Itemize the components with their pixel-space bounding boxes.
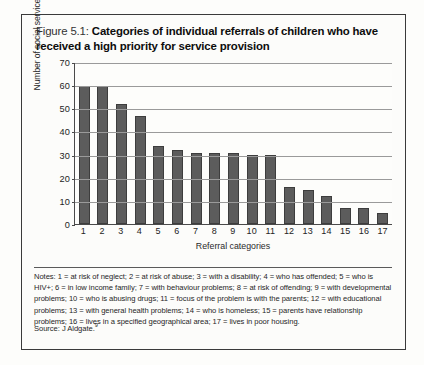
y-axis-tick-labels: 010203040506070 [44, 63, 70, 225]
x-axis-label: Referral categories [74, 241, 392, 251]
figure-caption: Figure 5.1: Categories of individual ref… [36, 24, 392, 54]
bar [340, 208, 351, 224]
plot-area [74, 63, 392, 225]
bar-slot [243, 63, 262, 224]
figure-label: Figure 5.1: [36, 25, 89, 37]
figure-notes: Notes: 1 = at risk of neglect; 2 = at ri… [34, 271, 394, 327]
bar [303, 190, 314, 225]
y-tick-mark [72, 179, 76, 180]
y-tick-label: 40 [59, 127, 70, 137]
y-tick-label: 20 [59, 174, 70, 184]
x-tick-label: 5 [149, 226, 168, 236]
bar-slot [280, 63, 299, 224]
bar [116, 104, 127, 224]
bar-slot [336, 63, 355, 224]
bar-slot [224, 63, 243, 224]
bar [377, 213, 388, 225]
bar-series [75, 63, 392, 224]
x-tick-label: 1 [74, 226, 93, 236]
y-tick-label: 50 [59, 104, 70, 114]
bar-slot [112, 63, 131, 224]
bar-slot [94, 63, 113, 224]
gridline [75, 132, 392, 133]
gridline [75, 202, 392, 203]
bar-slot [187, 63, 206, 224]
figure-box: Figure 5.1: Categories of individual ref… [21, 14, 406, 350]
bar-slot [299, 63, 318, 224]
bar [153, 146, 164, 224]
bar [209, 153, 220, 224]
x-tick-label: 8 [205, 226, 224, 236]
x-tick-label: 9 [224, 226, 243, 236]
gridline [75, 86, 392, 87]
x-tick-label: 3 [111, 226, 130, 236]
bar [191, 153, 202, 224]
y-tick-label: 70 [59, 58, 70, 68]
y-tick-mark [72, 109, 76, 110]
x-tick-label: 13 [298, 226, 317, 236]
bar [172, 150, 183, 224]
x-tick-label: 6 [168, 226, 187, 236]
y-tick-mark [72, 86, 76, 87]
y-axis-label: Number of social services departments [32, 0, 42, 93]
bar-slot [205, 63, 224, 224]
figure-source: Source: J Aldgate.9 [34, 322, 98, 333]
bar [284, 187, 295, 224]
gridline [75, 179, 392, 180]
source-footnote-marker: 9 [95, 322, 98, 328]
x-tick-label: 2 [93, 226, 112, 236]
y-tick-mark [72, 156, 76, 157]
bar-slot [373, 63, 392, 224]
y-tick-label: 30 [59, 151, 70, 161]
bar-slot [131, 63, 150, 224]
x-tick-label: 11 [261, 226, 280, 236]
bar [228, 153, 239, 224]
bar [358, 208, 369, 224]
y-tick-label: 60 [59, 81, 70, 91]
bar-slot [168, 63, 187, 224]
x-tick-label: 16 [355, 226, 374, 236]
y-tick-mark [72, 63, 76, 64]
y-tick-label: 10 [59, 197, 70, 207]
bar-slot [150, 63, 169, 224]
x-tick-label: 12 [280, 226, 299, 236]
bar-slot [317, 63, 336, 224]
source-text: Source: J Aldgate. [34, 324, 95, 333]
bar-chart: Number of social services departments 01… [36, 63, 394, 263]
x-tick-label: 17 [373, 226, 392, 236]
y-tick-mark [72, 202, 76, 203]
bar-slot [75, 63, 94, 224]
x-tick-label: 14 [317, 226, 336, 236]
gridline [75, 156, 392, 157]
x-axis-tick-labels: 1234567891011121314151617 [74, 226, 392, 236]
x-tick-label: 10 [242, 226, 261, 236]
y-tick-label: 0 [65, 220, 70, 230]
gridline [75, 63, 392, 64]
x-tick-label: 4 [130, 226, 149, 236]
scanned-page: Figure 5.1: Categories of individual ref… [0, 0, 424, 365]
y-tick-mark [72, 132, 76, 133]
bar [265, 155, 276, 224]
bar-slot [261, 63, 280, 224]
x-tick-label: 7 [186, 226, 205, 236]
x-tick-label: 15 [336, 226, 355, 236]
notes-divider [34, 267, 392, 268]
bar [247, 155, 258, 224]
bar-slot [355, 63, 374, 224]
bar [321, 196, 332, 224]
gridline [75, 109, 392, 110]
